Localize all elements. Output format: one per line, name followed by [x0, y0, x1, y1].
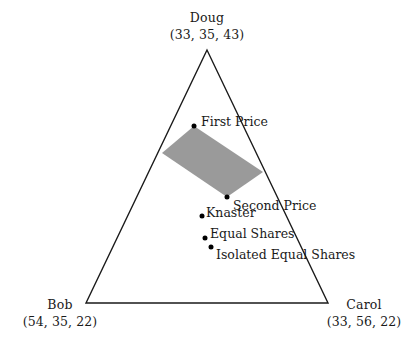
vertex-name-carol: Carol [316, 296, 412, 313]
vertex-name-bob: Bob [8, 296, 112, 313]
data-point-marker [225, 195, 230, 200]
point-label: Isolated Equal Shares [216, 249, 355, 262]
vertex-coords-carol: (33, 56, 22) [316, 313, 412, 330]
vertex-label-doug: Doug (33, 35, 43) [0, 9, 414, 44]
data-point-marker [192, 124, 197, 129]
vertex-coords-doug: (33, 35, 43) [0, 26, 414, 43]
data-point-marker [200, 214, 205, 219]
vertex-label-carol: Carol (33, 56, 22) [316, 296, 412, 331]
point-label: Equal Shares [210, 228, 294, 241]
vertex-name-doug: Doug [0, 9, 414, 26]
vertex-label-bob: Bob (54, 35, 22) [8, 296, 112, 331]
point-label: First Price [201, 116, 268, 129]
vertex-coords-bob: (54, 35, 22) [8, 313, 112, 330]
point-label: Knaster [206, 207, 256, 220]
data-point-marker [203, 236, 208, 241]
data-point-marker [209, 245, 214, 250]
simplex-figure: Doug (33, 35, 43) Bob (54, 35, 22) Carol… [0, 0, 414, 348]
